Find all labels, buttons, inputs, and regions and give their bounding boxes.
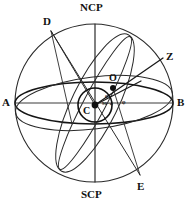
point-c-marker bbox=[92, 102, 99, 109]
label-point-d: D bbox=[43, 16, 51, 27]
label-point-c: C bbox=[83, 106, 90, 116]
celestial-sphere-figure: NCP SCP A B C D E O Z φ 90−φ φ bbox=[0, 0, 189, 204]
label-angle-phi-upper: φ bbox=[105, 94, 108, 100]
line-d-to-horizon-left bbox=[51, 31, 72, 124]
label-point-o: O bbox=[109, 73, 117, 83]
point-o-marker bbox=[110, 85, 116, 91]
label-angle-ninety-minus-phi: 90−φ bbox=[102, 101, 113, 106]
label-ncp: NCP bbox=[80, 2, 103, 13]
label-point-a: A bbox=[2, 97, 10, 108]
label-point-e: E bbox=[137, 181, 144, 192]
line-e-to-o bbox=[113, 88, 140, 175]
label-scp: SCP bbox=[81, 189, 102, 200]
label-point-b: B bbox=[177, 97, 184, 108]
sphere-diagram-svg bbox=[0, 0, 189, 204]
label-point-z: Z bbox=[166, 51, 173, 62]
label-angle-phi-right: φ bbox=[122, 100, 125, 106]
